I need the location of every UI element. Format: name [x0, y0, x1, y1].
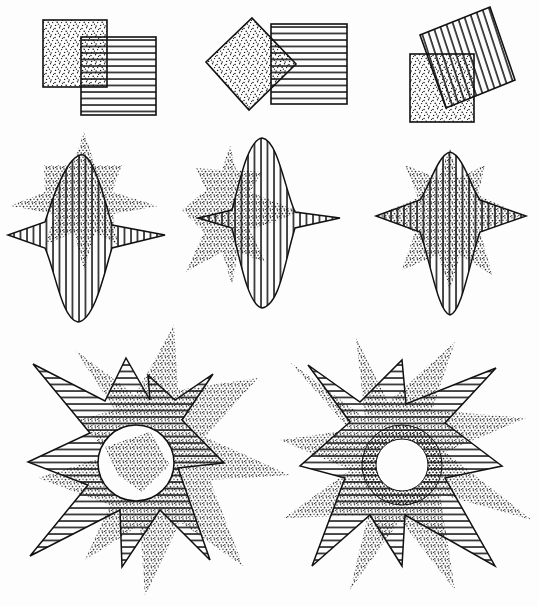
sunburst-right	[280, 338, 532, 590]
four-point-star-middle	[182, 138, 340, 308]
four-point-star-right	[376, 148, 526, 315]
rotated-squares	[410, 7, 515, 122]
offset-squares	[43, 20, 156, 115]
diamond-and-square	[206, 18, 347, 110]
figure-canvas	[0, 0, 539, 607]
four-point-star-left	[8, 132, 165, 322]
sunburst-left	[28, 325, 290, 596]
geometric-overlap-illustration	[0, 0, 539, 607]
